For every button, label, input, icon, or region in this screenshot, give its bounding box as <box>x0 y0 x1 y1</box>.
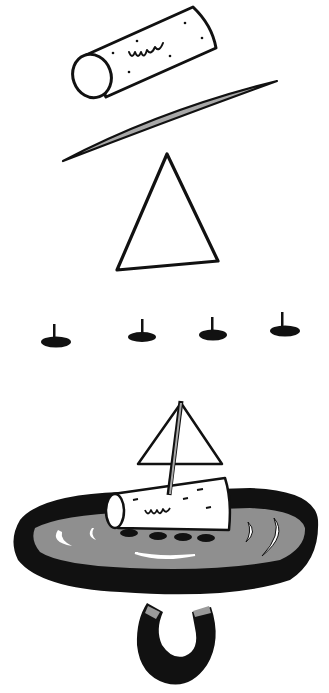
thumbtack-icon <box>41 324 71 348</box>
thumbtack-icon <box>128 319 156 342</box>
horseshoe-magnet-icon <box>137 603 216 685</box>
cork-icon <box>67 7 216 103</box>
thumbtack-icon <box>270 312 300 337</box>
illustration <box>0 0 329 693</box>
thumbtacks <box>41 312 300 348</box>
thumbtack-icon <box>199 317 227 341</box>
sail-triangle-icon <box>117 154 218 270</box>
